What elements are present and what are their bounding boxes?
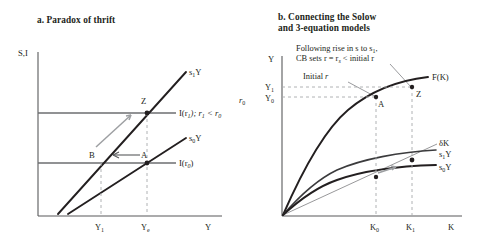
panel-b-annot-cb-line2-b: < initial r: [341, 54, 375, 63]
panel-b-label-s0y-tail: Y: [445, 162, 451, 172]
panel-a-y-axis-label: S,I: [18, 48, 28, 58]
panel-b-x-axis-label: K: [448, 222, 455, 232]
panel-b-title-line2: and 3-equation models: [278, 23, 370, 33]
panel-a-curve-s1y: [58, 72, 186, 214]
panel-b-ytick-y1-sub: 1: [271, 87, 274, 93]
panel-a-label-ir0-tail: ): [191, 158, 194, 168]
panel-a-label-ir1-sub3: 0: [218, 113, 221, 119]
panel-b-point-s0y-k0: [374, 175, 378, 179]
panel-a-label-s1y-tail: Y: [195, 67, 201, 77]
panel-a-label-ir1-tail: ); r: [190, 108, 203, 118]
panel-a-arrow-up: [96, 115, 131, 147]
panel-a: a. Paradox of thrift S,I Y: [18, 15, 222, 233]
panel-a-xtick-ye-sub: e: [147, 227, 150, 233]
panel-a-label-ir1: I(r1); r1 < r0: [179, 108, 221, 119]
panel-a-curve-s0y: [68, 138, 186, 214]
panel-b-annot-initial-r-ital: r: [325, 72, 329, 81]
panel-a-label-ir0: I(r0): [179, 158, 194, 169]
panel-b-annot-cb-line2-a: CB sets r = r: [296, 54, 339, 63]
panel-a-xtick-y1: Y1: [95, 223, 104, 233]
panel-b-ytick-y1: Y1: [265, 83, 274, 93]
panel-a-label-s0y: s0Y: [189, 133, 202, 144]
panel-a-label-z: Z: [141, 96, 146, 106]
figure-root: a. Paradox of thrift S,I Y: [0, 0, 477, 239]
panel-a-label-a: A: [141, 150, 148, 160]
panel-b-point-s1y-k1: [410, 158, 415, 163]
panel-b-ytick-y0: Y0: [265, 94, 274, 104]
panel-b: b. Connecting the Solow and 3-equation m…: [239, 12, 462, 233]
panel-b-xtick-k1-sub: 1: [412, 227, 415, 233]
panel-b-leader-cb-to-z: [390, 64, 411, 87]
panel-b-label-a: A: [378, 99, 385, 109]
panel-a-title: a. Paradox of thrift: [37, 15, 116, 25]
panel-b-label-s0y: s0Y: [439, 162, 452, 173]
panel-a-label-b: B: [89, 150, 95, 160]
panel-b-xtick-k1: K1: [406, 223, 415, 233]
panel-b-ytick-y0-sub: 0: [271, 98, 274, 104]
panel-b-annot-initial-r-a: Initial: [303, 72, 325, 81]
panel-b-label-s1y-tail: Y: [445, 149, 451, 159]
panel-b-label-deltak: δK: [439, 138, 450, 148]
panel-b-annot-cb-line2: CB sets r = rs < initial r: [296, 54, 374, 64]
panel-b-annot-cb-line1-b: ,: [376, 44, 378, 53]
panel-a-xtick-ye: Ye: [141, 223, 150, 233]
panel-b-y-axis-label: Y: [268, 54, 274, 64]
panel-b-xtick-k0-sub: 0: [376, 227, 379, 233]
panel-a-xtick-y1-sub: 1: [101, 227, 104, 233]
panel-a-label-ir0-a: I(r: [179, 158, 188, 168]
panel-b-title-line1: b. Connecting the Solow: [278, 12, 376, 22]
panel-b-curve-s0y: [283, 165, 436, 215]
panel-b-xtick-k0: K0: [370, 223, 379, 233]
panel-b-label-fk: F(K): [432, 72, 449, 82]
panel-b-curve-deltak: [283, 144, 437, 215]
panel-b-point-z: [410, 85, 414, 89]
panel-a-point-z: [145, 111, 150, 116]
panel-a-label-s0y-tail: Y: [195, 133, 201, 143]
panel-a-label-ir1-a: I(r: [179, 108, 188, 118]
panel-a-label-s1y: s1Y: [189, 67, 202, 78]
panel-b-curve-fk: [283, 77, 428, 215]
panel-b-label-s1y: s1Y: [439, 149, 452, 160]
figure-svg: a. Paradox of thrift S,I Y: [0, 0, 477, 239]
panel-b-label-z: Z: [416, 89, 421, 99]
panel-b-label-r0-stray: r0: [239, 95, 245, 106]
panel-b-annot-cb-line1-a: Following rise in s to s: [296, 44, 373, 53]
panel-b-annot-initial-r: Initial r: [303, 72, 329, 81]
panel-a-label-ir1-tail2: < r: [205, 108, 219, 118]
panel-a-x-axis-label: Y: [205, 222, 211, 232]
panel-b-label-r0-stray-sub: 0: [242, 100, 245, 106]
panel-b-annot-cb-line1: Following rise in s to s1,: [296, 44, 378, 54]
panel-a-point-a: [145, 161, 150, 166]
